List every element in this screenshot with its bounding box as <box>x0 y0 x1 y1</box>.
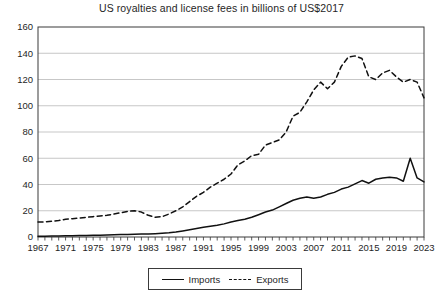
svg-text:40: 40 <box>22 179 33 190</box>
legend-entry-imports: Imports <box>162 274 221 285</box>
svg-text:1983: 1983 <box>138 242 159 253</box>
legend-label-imports: Imports <box>189 274 221 285</box>
svg-text:80: 80 <box>22 126 33 137</box>
svg-text:20: 20 <box>22 205 33 216</box>
x-axis-tick-labels: 1967197119751979198319871991199519992003… <box>27 242 434 253</box>
chart-legend: Imports Exports <box>148 268 302 290</box>
y-axis-tick-labels: 020406080100120140160 <box>17 21 33 242</box>
svg-text:120: 120 <box>17 74 33 85</box>
svg-text:2007: 2007 <box>303 242 324 253</box>
svg-text:0: 0 <box>28 231 33 242</box>
svg-text:2015: 2015 <box>358 242 379 253</box>
svg-text:1971: 1971 <box>55 242 76 253</box>
svg-text:1987: 1987 <box>165 242 186 253</box>
svg-text:2011: 2011 <box>331 242 351 253</box>
svg-text:2003: 2003 <box>276 242 297 253</box>
legend-label-exports: Exports <box>256 274 288 285</box>
legend-swatch-dashed-icon <box>229 279 251 280</box>
legend-entry-exports: Exports <box>229 274 288 285</box>
grid-lines <box>38 53 424 211</box>
series-line-exports <box>38 56 424 222</box>
svg-text:160: 160 <box>17 21 33 32</box>
svg-text:1995: 1995 <box>220 242 241 253</box>
series-line-imports <box>38 158 424 236</box>
svg-text:2019: 2019 <box>386 242 407 253</box>
svg-text:1979: 1979 <box>110 242 131 253</box>
svg-text:1991: 1991 <box>193 242 214 253</box>
svg-text:100: 100 <box>17 100 33 111</box>
svg-text:60: 60 <box>22 153 33 164</box>
svg-text:1999: 1999 <box>248 242 269 253</box>
chart-container: US royalties and license fees in billion… <box>0 0 443 301</box>
svg-text:2023: 2023 <box>413 242 434 253</box>
chart-plot-area: 020406080100120140160 196719711975197919… <box>0 0 443 301</box>
svg-text:1967: 1967 <box>27 242 48 253</box>
svg-text:1975: 1975 <box>83 242 104 253</box>
legend-swatch-solid-icon <box>162 279 184 280</box>
x-axis-minor-ticks <box>38 237 424 241</box>
svg-text:140: 140 <box>17 48 33 59</box>
